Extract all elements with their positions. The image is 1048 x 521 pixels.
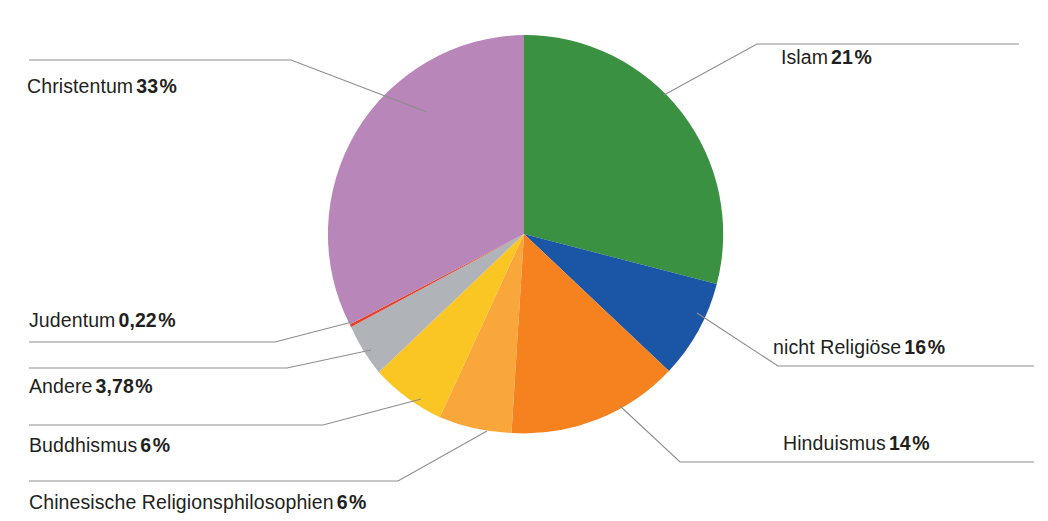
pie-label-judentum: Judentum0,22% (29, 310, 176, 330)
pie-label-andere-percent: % (135, 375, 152, 397)
pie-label-buddhismus-text: Buddhismus (29, 434, 137, 456)
pie-label-andere: Andere3,78% (29, 376, 153, 396)
pie-label-chinesische-text: Chinesische Religionsphilosophien (29, 491, 334, 513)
pie-label-hinduismus-percent: % (912, 432, 929, 454)
pie-label-andere-text: Andere (29, 375, 92, 397)
pie-label-chinesische-value: 6 (337, 491, 348, 513)
leader-line-andere (29, 350, 371, 368)
pie-label-islam-value: 21 (831, 46, 853, 68)
pie-label-judentum-text: Judentum (29, 309, 115, 331)
pie-label-andere-value: 3,78 (95, 375, 133, 397)
pie-label-christentum-percent: % (160, 75, 177, 97)
pie-label-nicht-religioese-value: 16 (904, 336, 926, 358)
pie-label-hinduismus-value: 14 (889, 432, 911, 454)
pie-label-buddhismus: Buddhismus6% (29, 435, 170, 455)
pie-label-buddhismus-value: 6 (140, 434, 151, 456)
pie-label-buddhismus-percent: % (153, 434, 170, 456)
pie-label-judentum-value: 0,22 (118, 309, 156, 331)
pie-label-hinduismus-text: Hinduismus (783, 432, 886, 454)
pie-label-nicht-religioese-percent: % (928, 336, 945, 358)
pie-label-nicht-religioese: nicht Religiöse16% (773, 337, 945, 357)
pie-label-islam-text: Islam (781, 46, 828, 68)
pie-label-islam: Islam21% (781, 47, 872, 67)
pie-label-christentum-text: Christentum (27, 75, 133, 97)
pie-label-christentum-value: 33 (136, 75, 158, 97)
source-credit-clipped (1032, 424, 1048, 496)
pie-label-christentum: Christentum33% (27, 76, 177, 96)
pie-label-hinduismus: Hinduismus14% (783, 433, 930, 453)
pie-label-chinesische-percent: % (349, 491, 366, 513)
pie-label-nicht-religioese-text: nicht Religiöse (773, 336, 901, 358)
pie-label-judentum-percent: % (158, 309, 175, 331)
pie-label-islam-percent: % (854, 46, 871, 68)
chart-canvas: Christentum33% Islam21% nicht Religiöse1… (0, 0, 1048, 521)
pie-label-chinesische-religionsphilosophien: Chinesische Religionsphilosophien6% (29, 492, 367, 512)
leader-line-buddhismus (29, 399, 421, 425)
